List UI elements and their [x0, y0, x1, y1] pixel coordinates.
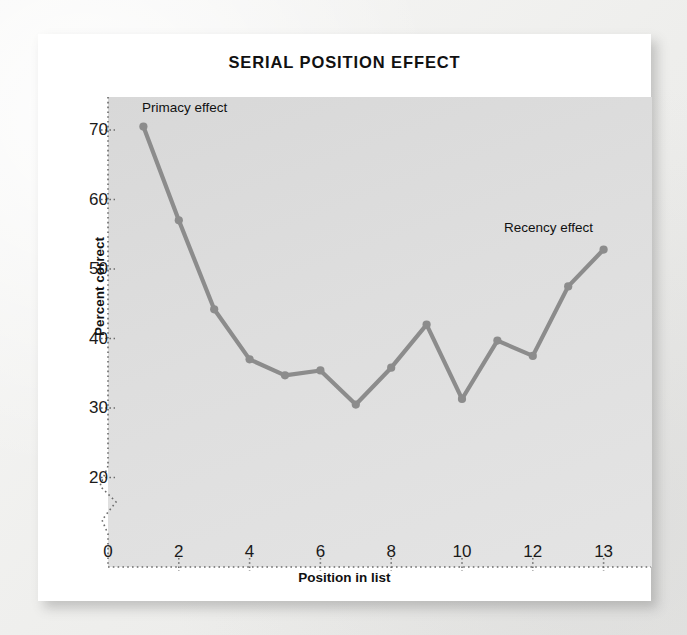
line-chart-svg — [108, 97, 652, 567]
x-tick-label: 10 — [453, 542, 472, 562]
data-point — [564, 282, 572, 290]
data-point — [493, 336, 501, 344]
x-tick-label: 12 — [523, 542, 542, 562]
plot-area — [108, 97, 652, 567]
y-axis-title: Percent correct — [92, 202, 107, 372]
data-point — [387, 364, 395, 372]
data-point — [246, 355, 254, 363]
x-tick-label: 4 — [245, 542, 254, 562]
data-markers — [139, 122, 607, 408]
x-tick-label: 0 — [103, 542, 112, 562]
data-point — [529, 352, 537, 360]
data-line — [143, 127, 603, 405]
annotation-primacy-effect: Primacy effect — [142, 100, 227, 115]
data-point — [175, 216, 183, 224]
x-tick-label: 2 — [174, 542, 183, 562]
x-tick-label: 8 — [386, 542, 395, 562]
data-point — [316, 366, 324, 374]
x-axis-title: Position in list — [38, 570, 651, 585]
y-tick-label: 30 — [74, 398, 108, 418]
data-point — [423, 321, 431, 329]
x-tick-label: 13 — [594, 542, 613, 562]
chart-title: SERIAL POSITION EFFECT — [38, 53, 651, 72]
data-point — [458, 395, 466, 403]
data-point — [139, 122, 147, 130]
y-tick-label: 70 — [74, 120, 108, 140]
y-tick-label: 20 — [74, 468, 108, 488]
data-point — [210, 305, 218, 313]
data-point — [281, 371, 289, 379]
data-point — [352, 400, 360, 408]
data-point — [600, 245, 608, 253]
figure-card: SERIAL POSITION EFFECT 203040506070 0246… — [38, 34, 651, 601]
x-tick-label: 6 — [316, 542, 325, 562]
annotation-recency-effect: Recency effect — [504, 220, 593, 235]
